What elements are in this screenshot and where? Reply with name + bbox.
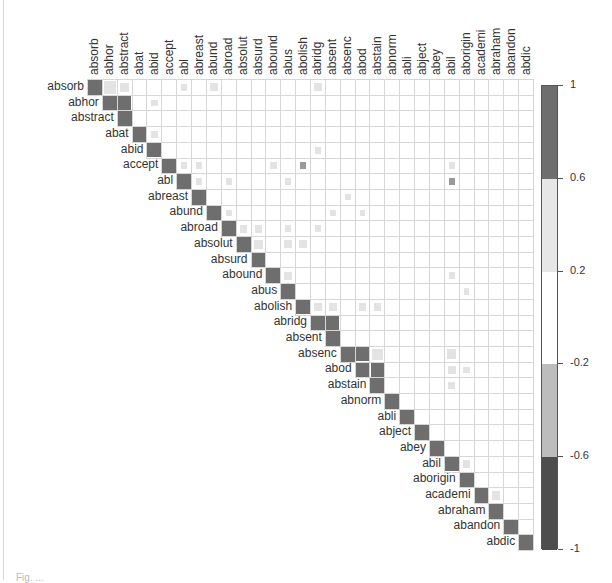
- column-label: abreast: [192, 35, 206, 75]
- correlation-cell: [254, 240, 263, 250]
- diagonal-cell: [445, 457, 459, 472]
- colorbar-band: [542, 364, 557, 457]
- row-label: abolish: [254, 299, 292, 313]
- diagonal-cell: [133, 127, 147, 142]
- gridline: [310, 79, 311, 330]
- correlation-cell: [449, 178, 455, 185]
- correlation-cell: [463, 460, 471, 468]
- column-label: abstain: [370, 36, 384, 75]
- row-label: abus: [251, 283, 277, 297]
- row-label: abroad: [180, 220, 217, 234]
- gridline: [251, 79, 252, 267]
- colorbar-band: [542, 179, 557, 272]
- correlation-cell: [226, 178, 232, 185]
- row-label: abreast: [148, 189, 188, 203]
- diagonal-cell: [147, 143, 161, 158]
- gridline: [191, 79, 192, 205]
- column-label: abject: [415, 43, 429, 75]
- correlation-cell: [448, 382, 455, 390]
- column-label: abound: [266, 35, 280, 75]
- column-label: abnorm: [385, 34, 399, 75]
- colorbar-tick-label: -0.2: [570, 356, 589, 368]
- colorbar-tick: [558, 456, 563, 457]
- gridline: [459, 487, 533, 488]
- page-margin-rule: [3, 0, 4, 580]
- correlation-cell: [299, 240, 307, 248]
- row-label: abraham: [438, 503, 485, 517]
- gridline: [533, 79, 534, 550]
- colorbar-tick: [558, 178, 563, 179]
- column-label: abhor: [102, 44, 116, 75]
- correlation-cell: [449, 162, 455, 169]
- column-label: absorb: [87, 38, 101, 75]
- correlation-cell: [315, 147, 321, 154]
- row-label: abandon: [454, 518, 501, 532]
- diagonal-cell: [252, 253, 266, 268]
- column-label: absent: [325, 39, 339, 75]
- correlation-cell: [345, 194, 351, 200]
- column-label: academi: [474, 30, 488, 75]
- gridline: [399, 79, 400, 424]
- diagonal-cell: [430, 441, 444, 456]
- diagonal-cell: [504, 520, 518, 535]
- correlation-cell: [181, 162, 187, 169]
- column-label: abstract: [117, 32, 131, 75]
- row-label: abat: [105, 126, 128, 140]
- row-label: academi: [425, 487, 470, 501]
- correlation-cell: [356, 347, 369, 361]
- diagonal-cell: [356, 363, 370, 378]
- correlation-cell: [285, 225, 291, 232]
- diagonal-cell: [370, 378, 384, 393]
- gridline: [280, 79, 281, 299]
- column-label: abolish: [296, 37, 310, 75]
- gridline: [102, 110, 533, 111]
- row-label: abridg: [274, 314, 307, 328]
- row-label: abey: [400, 440, 426, 454]
- correlation-cell: [181, 84, 187, 91]
- gridline: [251, 267, 533, 268]
- correlation-cell: [104, 81, 116, 93]
- gridline: [280, 299, 533, 300]
- column-label: abil: [444, 56, 458, 75]
- row-label: absurd: [211, 252, 248, 266]
- gridline: [221, 79, 222, 236]
- gridline: [161, 173, 533, 174]
- gridline: [236, 79, 237, 252]
- correlation-cell: [315, 225, 321, 232]
- correlation-cell: [314, 83, 322, 91]
- gridline: [369, 79, 370, 393]
- row-label: abl: [157, 173, 173, 187]
- row-label: accept: [123, 157, 158, 171]
- correlation-cell: [314, 303, 322, 311]
- correlation-cell: [463, 367, 469, 374]
- correlation-cell: [447, 349, 456, 359]
- column-label: abey: [429, 49, 443, 75]
- colorbar-band: [542, 86, 557, 179]
- colorbar-tick-label: 1: [570, 78, 576, 90]
- gridline: [518, 550, 533, 551]
- gridline: [176, 79, 177, 189]
- diagonal-cell: [266, 268, 280, 283]
- column-label: abat: [132, 52, 146, 75]
- diagonal-cell: [177, 174, 191, 189]
- gridline: [474, 79, 475, 503]
- gridline: [459, 79, 460, 487]
- column-label: abl: [177, 59, 191, 75]
- correlation-cell: [448, 366, 456, 374]
- correlation-cell: [284, 240, 292, 248]
- diagonal-cell: [192, 190, 206, 205]
- diagonal-cell: [341, 347, 355, 362]
- diagonal-cell: [489, 504, 503, 519]
- row-label: abject: [379, 424, 411, 438]
- correlation-cell: [118, 96, 131, 110]
- diagonal-cell: [311, 316, 325, 331]
- colorbar-tick-label: -0.6: [570, 449, 589, 461]
- colorbar-tick: [558, 549, 563, 550]
- correlation-cell: [360, 210, 366, 216]
- column-label: accept: [162, 40, 176, 75]
- row-label: abli: [378, 409, 397, 423]
- gridline: [518, 79, 519, 550]
- correlation-cell: [151, 100, 157, 107]
- row-label: abstract: [71, 110, 114, 124]
